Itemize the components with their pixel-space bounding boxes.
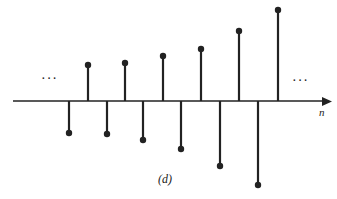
stem bbox=[255, 101, 261, 188]
stem-dot-icon bbox=[66, 130, 72, 136]
stem-dot-icon bbox=[198, 46, 204, 52]
stem-dot-icon bbox=[160, 53, 166, 59]
stem-plot bbox=[0, 0, 337, 199]
stem-dot-icon bbox=[104, 131, 110, 137]
arrow-head-icon bbox=[322, 97, 332, 106]
stem-dot-icon bbox=[178, 146, 184, 152]
stem-dot-icon bbox=[236, 28, 242, 34]
ellipsis-right: ··· bbox=[292, 76, 309, 86]
ellipsis-left: ··· bbox=[41, 74, 58, 84]
stem bbox=[178, 101, 184, 152]
axis-label-n: n bbox=[319, 106, 325, 118]
stem bbox=[217, 101, 223, 169]
stem bbox=[198, 46, 204, 101]
figure-caption: (d) bbox=[158, 172, 172, 187]
stem bbox=[160, 53, 166, 101]
stem bbox=[122, 60, 128, 101]
stem bbox=[140, 101, 146, 143]
stem-dot-icon bbox=[85, 62, 91, 68]
stem bbox=[85, 62, 91, 101]
stem bbox=[275, 7, 281, 101]
stems bbox=[66, 7, 281, 188]
stem-dot-icon bbox=[275, 7, 281, 13]
stem-dot-icon bbox=[122, 60, 128, 66]
stem bbox=[104, 101, 110, 137]
stem-dot-icon bbox=[217, 163, 223, 169]
stem-dot-icon bbox=[140, 137, 146, 143]
stem bbox=[66, 101, 72, 136]
stem bbox=[236, 28, 242, 101]
stem-dot-icon bbox=[255, 182, 261, 188]
n-axis bbox=[13, 97, 332, 106]
